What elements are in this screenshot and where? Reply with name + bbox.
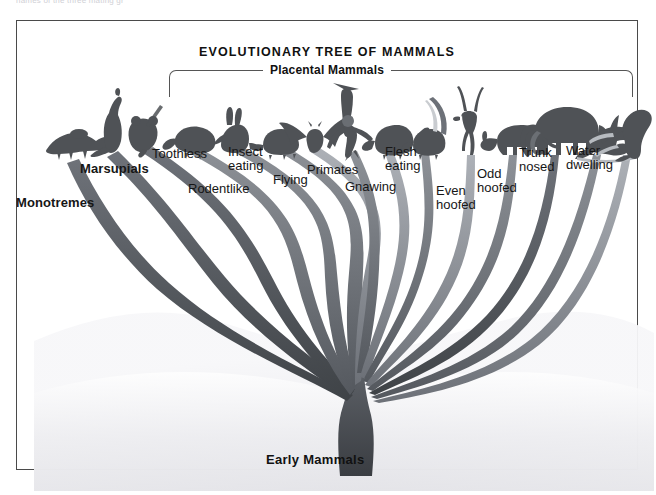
branch-label-line: Even <box>436 184 476 198</box>
branch-label-line: Odd <box>477 167 517 181</box>
branch-label-rodentlike: Rodentlike <box>188 182 249 196</box>
cut-off-caption: names of the three mating gr <box>16 0 316 6</box>
branch-label-line: Monotremes <box>16 196 94 210</box>
branch-label-flesh-eating: Flesheating <box>385 145 420 173</box>
branch-label-line: Water <box>566 144 613 158</box>
branch-label-line: Toothless <box>152 147 207 161</box>
placental-mammals-text: Placental Mammals <box>263 63 391 77</box>
branch-label-monotremes: Monotremes <box>16 196 94 210</box>
branch-label-line: Flesh <box>385 145 420 159</box>
branch-label-primates: Primates <box>307 163 358 177</box>
branch-label-line: Gnawing <box>345 180 396 194</box>
branch-label-line: Insect <box>228 145 263 159</box>
branch-label-line: hoofed <box>477 181 517 195</box>
branch-label-toothless: Toothless <box>152 147 207 161</box>
branch-label-line: eating <box>385 159 420 173</box>
branch-label-line: hoofed <box>436 198 476 212</box>
branch-label-odd-hoofed: Oddhoofed <box>477 167 517 195</box>
branch-label-line: nosed <box>519 160 554 174</box>
branch-label-gnawing: Gnawing <box>345 180 396 194</box>
branch-label-line: Marsupials <box>80 162 149 176</box>
branch-label-line: Trunk <box>519 146 554 160</box>
figure-frame: EVOLUTIONARY TREE OF MAMMALS Placental M… <box>16 20 638 470</box>
branch-label-line: Flying <box>273 173 308 187</box>
branch-label-line: dwelling <box>566 158 613 172</box>
branch-label-marsupials: Marsupials <box>80 162 149 176</box>
branch-label-line: eating <box>228 159 263 173</box>
branch-label-line: Rodentlike <box>188 182 249 196</box>
branch-label-trunk-nosed: Trunknosed <box>519 146 554 174</box>
root-label-early-mammals: Early Mammals <box>266 452 365 467</box>
figure-title: EVOLUTIONARY TREE OF MAMMALS <box>17 45 637 59</box>
branch-label-line: Primates <box>307 163 358 177</box>
branch-label-water-dwelling: Waterdwelling <box>566 144 613 172</box>
branch-label-insect-eating: Insecteating <box>228 145 263 173</box>
branch-label-even-hoofed: Evenhoofed <box>436 184 476 212</box>
branch-label-flying: Flying <box>273 173 308 187</box>
placental-mammals-label: Placental Mammals <box>17 63 637 77</box>
